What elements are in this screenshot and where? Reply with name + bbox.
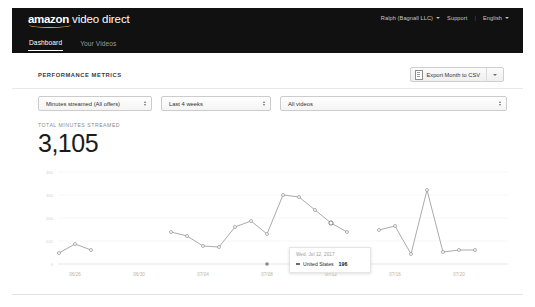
- data-point: [378, 229, 381, 232]
- date-range-select[interactable]: Last 4 weeks: [161, 96, 271, 111]
- x-tick-label: 07/16: [389, 272, 401, 277]
- tooltip-series-value: 196: [339, 261, 348, 267]
- arrow-up-icon: [144, 101, 146, 103]
- brand-row: amazon video direct Ralph (Bagnall LLC) …: [12, 8, 523, 34]
- data-point: [58, 252, 61, 255]
- data-point: [426, 189, 429, 192]
- data-point: [170, 231, 173, 234]
- x-tick-label: 07/20: [453, 272, 465, 277]
- top-navigation-bar: amazon video direct Ralph (Bagnall LLC) …: [12, 8, 523, 53]
- language-menu[interactable]: English: [483, 15, 509, 21]
- arrow-down-icon: [144, 104, 146, 106]
- data-point-highlighted: [329, 221, 333, 225]
- data-point: [218, 246, 221, 249]
- tooltip-series-row: United States 196: [296, 261, 363, 267]
- panel-header: PERFORMANCE METRICS Export Month to CSV: [12, 62, 523, 89]
- chart-tooltip: Wed, Jul 12, 2017 United States 196: [289, 247, 371, 273]
- data-point: [298, 196, 301, 199]
- amazon-video-direct-logo[interactable]: amazon video direct: [28, 13, 130, 25]
- panel-title: PERFORMANCE METRICS: [38, 72, 122, 78]
- performance-metrics-panel: PERFORMANCE METRICS Export Month to CSV …: [12, 62, 523, 295]
- tab-dashboard[interactable]: Dashboard: [28, 36, 63, 51]
- total-metric-block: TOTAL MINUTES STREAMED 3,105: [38, 122, 120, 156]
- arrow-up-icon: [263, 101, 265, 103]
- data-point: [234, 226, 237, 229]
- dashboard-page: amazon video direct Ralph (Bagnall LLC) …: [0, 0, 535, 307]
- account-menu[interactable]: Ralph (Bagnall LLC): [381, 15, 440, 21]
- chevron-down-icon: [436, 17, 440, 19]
- arrow-down-icon: [263, 104, 265, 106]
- y-tick-label: 300: [46, 193, 54, 198]
- tooltip-series-name: United States: [303, 261, 334, 267]
- metric-select-value: Minutes streamed (All offers): [46, 101, 120, 107]
- export-month-to-csv-button[interactable]: Export Month to CSV: [410, 67, 504, 82]
- chart-svg: 400 300 200 100 0 06/26 06/30 07/04 07/0…: [34, 166, 510, 289]
- data-point: [74, 243, 77, 246]
- y-tick-label: 100: [46, 239, 54, 244]
- data-point: [250, 220, 253, 223]
- x-tick-label: 07/08: [261, 272, 273, 277]
- arrow-down-icon: [499, 104, 501, 106]
- data-point: [474, 249, 477, 252]
- video-select[interactable]: All videos: [280, 96, 507, 111]
- metric-select[interactable]: Minutes streamed (All offers): [38, 96, 152, 111]
- button-divider: [486, 68, 487, 81]
- y-tick-label: 0: [51, 262, 54, 267]
- select-arrows-icon: [499, 101, 501, 106]
- select-arrows-icon: [144, 101, 146, 106]
- support-link[interactable]: Support: [447, 15, 467, 21]
- menu-separator: |: [474, 15, 476, 21]
- tooltip-date: Wed, Jul 12, 2017: [296, 252, 363, 257]
- export-button-label: Export Month to CSV: [427, 72, 480, 78]
- select-arrows-icon: [263, 101, 265, 106]
- language-menu-label: English: [483, 15, 502, 21]
- support-link-label: Support: [447, 15, 467, 21]
- logo-video-direct-text: video direct: [72, 13, 130, 25]
- data-point: [394, 225, 397, 228]
- series-color-swatch: [296, 263, 300, 264]
- y-tick-label: 400: [46, 170, 54, 175]
- document-icon: [415, 70, 423, 80]
- top-right-menu: Ralph (Bagnall LLC) Support | English: [381, 15, 509, 21]
- x-tick-label: 07/04: [197, 272, 209, 277]
- filter-row: Minutes streamed (All offers) Last 4 wee…: [38, 96, 507, 111]
- data-point: [458, 249, 461, 252]
- amazon-smile-icon: [29, 22, 71, 28]
- data-point: [442, 251, 445, 254]
- data-point: [282, 194, 285, 197]
- total-metric-label: TOTAL MINUTES STREAMED: [38, 122, 120, 128]
- y-tick-label: 200: [46, 216, 54, 221]
- video-select-value: All videos: [288, 101, 313, 107]
- axis-hover-marker: [265, 262, 269, 266]
- primary-nav-tabs: Dashboard Your Videos: [12, 34, 523, 53]
- date-range-select-value: Last 4 weeks: [169, 101, 203, 107]
- account-menu-label: Ralph (Bagnall LLC): [381, 15, 433, 21]
- arrow-up-icon: [499, 101, 501, 103]
- chevron-down-icon: [493, 74, 497, 76]
- x-tick-label: 06/30: [133, 272, 145, 277]
- series-line-segment: [379, 190, 475, 254]
- data-point: [346, 231, 349, 234]
- series-line-segment: [171, 195, 347, 247]
- total-metric-value: 3,105: [38, 130, 120, 156]
- data-point: [90, 249, 93, 252]
- data-point: [314, 209, 317, 212]
- minutes-streamed-chart[interactable]: 400 300 200 100 0 06/26 06/30 07/04 07/0…: [34, 166, 510, 289]
- data-point: [202, 245, 205, 248]
- data-point: [410, 253, 413, 256]
- data-point: [266, 233, 269, 236]
- x-tick-label: 06/26: [69, 272, 81, 277]
- chevron-down-icon: [505, 17, 509, 19]
- data-point: [186, 235, 189, 238]
- tab-your-videos[interactable]: Your Videos: [79, 37, 117, 51]
